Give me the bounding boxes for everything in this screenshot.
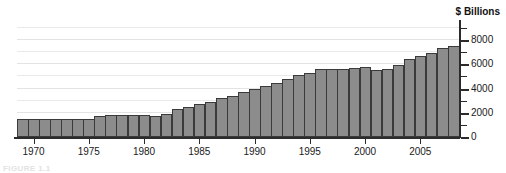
bar	[72, 119, 84, 137]
y-axis-label: 2000	[471, 108, 493, 118]
bar	[448, 46, 460, 137]
x-axis-label: 1995	[299, 146, 321, 157]
x-axis-tick	[89, 139, 90, 144]
bar	[304, 73, 316, 137]
y-axis-label: 0	[471, 132, 477, 142]
bar	[326, 69, 338, 137]
y-axis-tick	[461, 40, 469, 42]
bar	[349, 68, 361, 137]
bar	[393, 65, 405, 137]
bar	[415, 56, 427, 137]
bar	[360, 67, 372, 137]
plot-area	[17, 28, 459, 137]
x-axis-label: 2005	[409, 146, 431, 157]
bar	[61, 119, 73, 137]
bar	[249, 89, 261, 137]
bar	[105, 115, 117, 137]
bar	[260, 86, 272, 137]
bar	[39, 119, 51, 137]
bar	[17, 119, 29, 137]
figure-caption: FIGURE 1.1	[3, 164, 51, 173]
x-axis-label: 1985	[188, 146, 210, 157]
x-axis-label: 1980	[133, 146, 155, 157]
x-axis-label: 2000	[354, 146, 376, 157]
x-axis-tick	[199, 139, 200, 144]
bar	[404, 59, 416, 137]
bar	[216, 98, 228, 137]
chart-figure: $ Billions 02000400060008000 19701975198…	[0, 0, 506, 173]
y-axis-label: 4000	[471, 84, 493, 94]
bar	[371, 70, 383, 137]
x-axis-tick	[34, 139, 35, 144]
bar	[437, 48, 449, 137]
bar	[83, 119, 95, 137]
x-axis-tick	[255, 139, 256, 144]
y-axis-line	[459, 20, 461, 138]
bar-series	[17, 28, 459, 137]
bar	[194, 104, 206, 137]
bar	[282, 79, 294, 137]
x-axis-tick	[365, 139, 366, 144]
y-axis-tick	[461, 113, 469, 115]
bar	[271, 83, 283, 138]
bar	[426, 53, 438, 137]
y-axis-label: 6000	[471, 59, 493, 69]
x-axis-tick	[310, 139, 311, 144]
y-axis-tick	[461, 101, 467, 102]
y-axis-tick	[461, 64, 469, 66]
x-axis-label: 1975	[78, 146, 100, 157]
x-axis-label: 1970	[22, 146, 44, 157]
y-axis-tick	[461, 89, 469, 91]
bar	[50, 119, 62, 137]
y-axis-tick	[461, 28, 467, 29]
bar	[183, 107, 195, 137]
bar	[205, 102, 217, 137]
x-axis-tick	[144, 139, 145, 144]
bar	[227, 96, 239, 137]
x-axis-tick	[420, 139, 421, 144]
y-axis-tick	[461, 137, 469, 139]
bar	[28, 119, 40, 137]
bar	[238, 92, 250, 137]
bar	[172, 109, 184, 137]
y-axis-tick	[461, 125, 467, 126]
bar	[315, 69, 327, 137]
bar	[161, 114, 173, 137]
y-axis-tick	[461, 52, 467, 53]
bar	[382, 69, 394, 137]
x-axis-label: 1990	[243, 146, 265, 157]
y-axis-tick	[461, 76, 467, 77]
bar	[139, 115, 151, 137]
bar	[337, 69, 349, 137]
bar	[293, 75, 305, 137]
bar	[150, 116, 162, 137]
x-axis-line	[14, 137, 460, 139]
bar	[116, 115, 128, 137]
bar	[94, 116, 106, 137]
chart-axis-title: $ Billions	[456, 6, 500, 17]
y-axis-label: 8000	[471, 35, 493, 45]
bar	[128, 115, 140, 137]
